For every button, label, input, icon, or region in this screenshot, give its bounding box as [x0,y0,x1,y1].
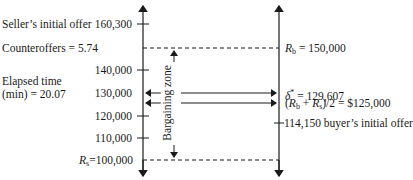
tick-160300: 160,300 [0,18,132,31]
bargaining-zone-label: Bargaining zone [161,63,173,142]
tick-140000: 140,000 [0,64,132,77]
rs-label: Rs=100,000 [79,154,133,167]
rb-label: Rb = 150,000 [285,42,346,55]
tick-110000: 110,000 [0,132,132,145]
tick-120000: 120,000 [0,110,132,123]
counteroffers-label: Counteroffers = 5.74 [2,42,98,55]
midpoint-label: (Rb + Rs)/2 = $125,000 [285,97,390,110]
buyer-initial-offer-label: 114,150 buyer’s initial offer [284,117,413,130]
tick-130000: 130,000 [0,87,132,100]
